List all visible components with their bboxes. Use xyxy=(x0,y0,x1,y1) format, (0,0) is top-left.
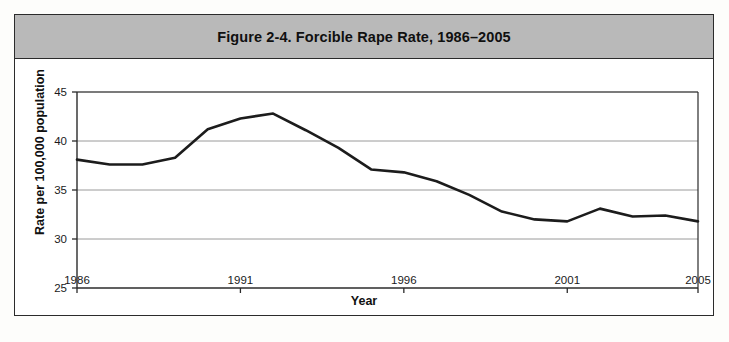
tick-marks-group xyxy=(72,92,698,293)
x-tick-label-2001: 2001 xyxy=(542,274,592,286)
x-tick-label-1991: 1991 xyxy=(215,274,265,286)
y-tick-label-40: 40 xyxy=(37,135,67,147)
gridlines-group xyxy=(77,92,698,239)
figure-box: Figure 2-4. Forcible Rape Rate, 1986–200… xyxy=(14,14,714,316)
figure-title: Figure 2-4. Forcible Rape Rate, 1986–200… xyxy=(217,29,510,45)
data-line-0 xyxy=(77,114,698,222)
x-tick-label-2005: 2005 xyxy=(673,274,723,286)
data-series-group xyxy=(77,114,698,222)
y-tick-label-35: 35 xyxy=(37,184,67,196)
y-tick-label-30: 30 xyxy=(37,233,67,245)
chart-canvas xyxy=(15,59,713,316)
plot-region: Rate per 100,000 population Year 2530354… xyxy=(15,59,713,316)
x-tick-label-1996: 1996 xyxy=(379,274,429,286)
y-tick-label-45: 45 xyxy=(37,86,67,98)
figure-root: Figure 2-4. Forcible Rape Rate, 1986–200… xyxy=(0,0,729,342)
figure-title-band: Figure 2-4. Forcible Rape Rate, 1986–200… xyxy=(15,15,713,59)
x-tick-label-1986: 1986 xyxy=(52,274,102,286)
